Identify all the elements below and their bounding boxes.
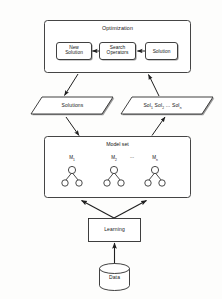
arrow-learning-to-model-set-right (114, 201, 147, 219)
data-store-cylinder[interactable] (100, 264, 130, 291)
arrow-learning-to-model-set-left (82, 201, 115, 219)
process-flow-diagram: Optimization NewSolution SearchOperators… (0, 0, 222, 299)
arrow-solution-list-to-optimization (149, 75, 160, 97)
model-set-container (45, 137, 191, 198)
arrow-model-set-to-solution-list (152, 117, 165, 136)
solution-node[interactable] (146, 43, 178, 60)
arrow-optimization-to-solutions (65, 74, 79, 96)
search-operators-node[interactable] (100, 43, 136, 60)
arrow-solutions-to-model-set (66, 117, 79, 136)
diagram-vector-layer (0, 0, 222, 299)
solution-list-flow-shape[interactable] (121, 97, 213, 114)
solutions-flow-shape[interactable] (31, 97, 113, 114)
learning-box[interactable] (89, 219, 141, 242)
new-solution-node[interactable] (57, 43, 92, 60)
